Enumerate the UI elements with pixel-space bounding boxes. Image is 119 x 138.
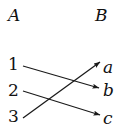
arrow-1-to-b: [23, 66, 99, 88]
arrow-3-to-a: [23, 62, 100, 118]
arrow-layer: [0, 0, 119, 138]
arrow-group: [23, 62, 100, 118]
arrow-2-to-c: [23, 91, 100, 115]
mapping-diagram: A B 1 2 3 a b c: [0, 0, 119, 138]
